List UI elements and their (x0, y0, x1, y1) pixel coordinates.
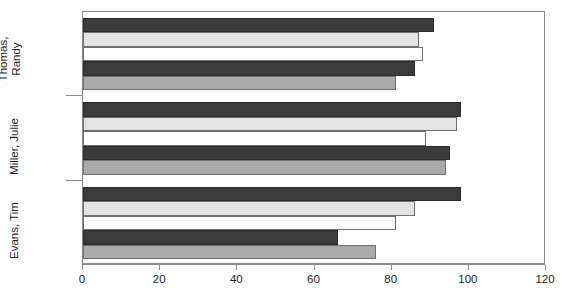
x-axis-tick-label: 60 (307, 273, 320, 285)
x-axis: 020406080100120 (82, 264, 545, 265)
bar (83, 187, 461, 201)
category-separator (66, 180, 83, 181)
bar-row (83, 146, 544, 160)
bar-row (83, 216, 544, 230)
category-label-evans-tim: Evans, Tim (8, 188, 21, 274)
plot-area (82, 11, 545, 264)
x-axis-tick (82, 265, 83, 270)
bar-row (83, 230, 544, 244)
bar (83, 230, 338, 244)
x-axis-tick-label: 100 (458, 273, 477, 285)
x-axis-tick (236, 265, 237, 270)
x-axis-tick (468, 265, 469, 270)
bar-row (83, 160, 544, 174)
bar-row (83, 245, 544, 259)
bar (83, 102, 461, 116)
bar-row (83, 18, 544, 32)
x-axis-tick (391, 265, 392, 270)
bar-row (83, 187, 544, 201)
x-axis-tick (314, 265, 315, 270)
bar-chart: Thomas, Randy Miller, Julie Evans, Tim 0… (0, 0, 586, 304)
bar-row (83, 201, 544, 215)
bar-row (83, 131, 544, 145)
x-axis-tick-label: 20 (153, 273, 166, 285)
bar-row (83, 61, 544, 75)
bar-group (83, 181, 544, 265)
bar-row (83, 32, 544, 46)
bar (83, 146, 450, 160)
bar (83, 61, 415, 75)
category-separator (66, 95, 83, 96)
bar (83, 245, 376, 259)
bar (83, 117, 457, 131)
category-label-thomas-randy: Thomas, Randy (0, 16, 23, 102)
bar-group (83, 12, 544, 96)
bar (83, 131, 426, 145)
bar (83, 76, 396, 90)
bar-row (83, 117, 544, 131)
bar-row (83, 76, 544, 90)
x-axis-tick-label: 40 (230, 273, 243, 285)
x-axis-tick (159, 265, 160, 270)
bar (83, 160, 446, 174)
x-axis-tick-label: 80 (384, 273, 397, 285)
bar (83, 201, 415, 215)
x-axis-tick-label: 0 (79, 273, 85, 285)
bar-row (83, 102, 544, 116)
bar-group (83, 96, 544, 180)
x-axis-tick (545, 265, 546, 270)
bar-row (83, 47, 544, 61)
x-axis-tick-label: 120 (535, 273, 554, 285)
bar (83, 32, 419, 46)
bar (83, 216, 396, 230)
bar (83, 18, 434, 32)
bar (83, 47, 423, 61)
category-label-miller-julie: Miller, Julie (8, 104, 21, 190)
